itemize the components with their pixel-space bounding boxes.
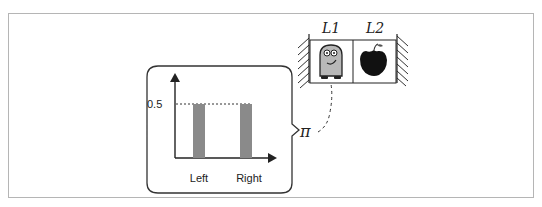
policy-link-line bbox=[318, 84, 332, 132]
gridworld: L1 L2 bbox=[298, 20, 408, 88]
y-tick-label: 0.5 bbox=[147, 98, 162, 110]
category-label-left: Left bbox=[190, 172, 208, 184]
agent-icon bbox=[320, 45, 342, 79]
apple-icon bbox=[360, 44, 387, 76]
location-label-l2: L2 bbox=[365, 20, 384, 36]
location-label-l1: L1 bbox=[321, 20, 340, 36]
policy-callout bbox=[147, 66, 299, 193]
bar-left bbox=[193, 104, 205, 158]
bar-right bbox=[240, 104, 252, 158]
right-wall-hatch bbox=[397, 36, 408, 86]
category-label-right: Right bbox=[236, 172, 262, 184]
policy-symbol: π bbox=[299, 122, 311, 141]
diagram-canvas: 0.5 Left Right π bbox=[0, 0, 542, 207]
left-wall-hatch bbox=[298, 38, 309, 88]
